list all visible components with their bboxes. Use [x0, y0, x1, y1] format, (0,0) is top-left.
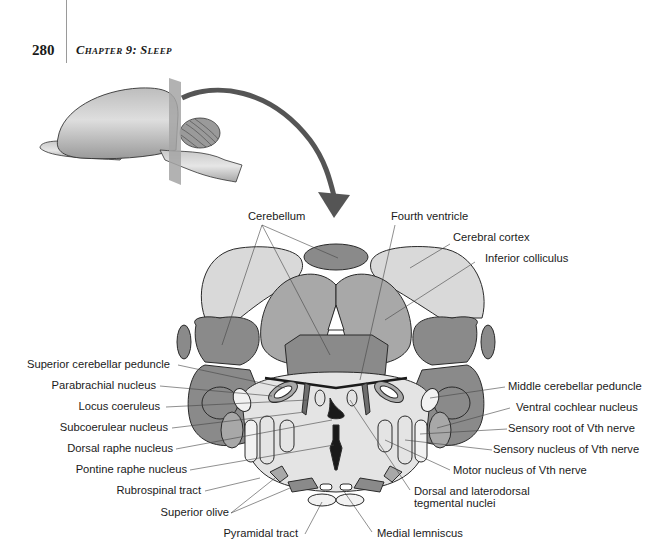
label-superior-cerebellar-peduncle: Superior cerebellar peduncle [27, 358, 170, 371]
label-locus-coeruleus: Locus coeruleus [79, 400, 160, 413]
label-medial-lemniscus: Medial lemniscus [377, 527, 463, 540]
label-middle-cerebellar-peduncle: Middle cerebellar peduncle [508, 380, 642, 393]
label-dorsal-raphe-nucleus: Dorsal raphe nucleus [67, 442, 173, 455]
label-motor-nucleus-vth-nerve: Motor nucleus of Vth nerve [453, 464, 587, 477]
label-fourth-ventricle: Fourth ventricle [391, 210, 468, 223]
label-superior-olive: Superior olive [161, 506, 229, 519]
label-inferior-colliculus: Inferior colliculus [485, 252, 568, 265]
label-cerebral-cortex: Cerebral cortex [453, 231, 529, 244]
label-pontine-raphe-nucleus: Pontine raphe nucleus [76, 463, 187, 476]
label-cerebellum: Cerebellum [248, 210, 305, 223]
label-rubrospinal-tract: Rubrospinal tract [116, 484, 201, 497]
label-sensory-root-vth-nerve: Sensory root of Vth nerve [508, 422, 635, 435]
sagittal-brain-illustration [40, 78, 242, 185]
brainstem-figure [0, 0, 664, 540]
label-dorsal-laterodorsal-2: tegmental nuclei [414, 497, 495, 510]
label-pyramidal-tract: Pyramidal tract [223, 527, 298, 540]
label-ventral-cochlear-nucleus: Ventral cochlear nucleus [516, 401, 638, 414]
label-subcoerulear-nucleus: Subcoerulear nucleus [60, 421, 168, 434]
label-parabrachial-nucleus: Parabrachial nucleus [52, 379, 156, 392]
label-sensory-nucleus-vth-nerve: Sensory nucleus of Vth nerve [493, 443, 639, 456]
